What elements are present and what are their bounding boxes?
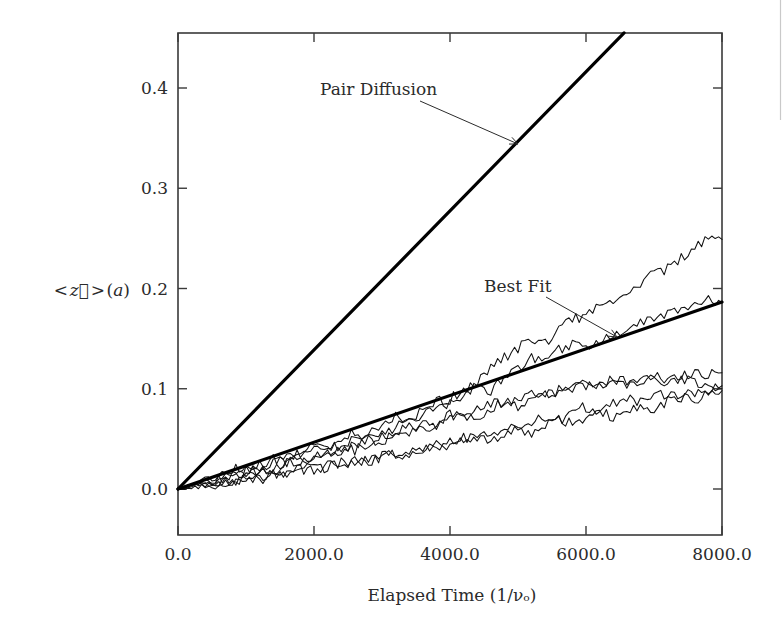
- best-fit-line: [178, 302, 722, 489]
- annotation-leaders: [420, 101, 617, 337]
- y-tick-label-1: 0.1: [141, 379, 168, 399]
- y-tick-label-4: 0.4: [141, 78, 168, 98]
- x-axis-title: Elapsed Time (1/νₒ): [368, 585, 537, 605]
- y-tick-label-0: 0.0: [141, 479, 168, 499]
- figure-container: 0.0 2000.0 4000.0 6000.0 8000.0 0.0 0.1 …: [0, 0, 782, 636]
- x-tick-label-3: 6000.0: [556, 544, 615, 564]
- x-tick-label-2: 4000.0: [420, 544, 479, 564]
- annotation-pair-diffusion-label: Pair Diffusion: [320, 79, 437, 99]
- fit-lines: [178, 33, 722, 489]
- y-axis-title: < z⃗ > (a): [54, 280, 130, 300]
- x-tick-label-0: 0.0: [164, 544, 191, 564]
- y-tick-label-2: 0.2: [141, 279, 168, 299]
- x-tick-label-4: 8000.0: [692, 544, 751, 564]
- y-axis-title-text: < z⃗ > (a): [54, 280, 130, 300]
- annotation-best-fit-label: Best Fit: [484, 276, 552, 296]
- y-tick-label-3: 0.3: [141, 178, 168, 198]
- trace-5: [178, 375, 722, 489]
- trace-2: [178, 236, 722, 489]
- leader-line-0: [420, 101, 518, 144]
- x-tick-label-1: 2000.0: [284, 544, 343, 564]
- trajectory-traces: [178, 236, 722, 489]
- plot-canvas: 0.0 2000.0 4000.0 6000.0 8000.0 0.0 0.1 …: [0, 0, 782, 636]
